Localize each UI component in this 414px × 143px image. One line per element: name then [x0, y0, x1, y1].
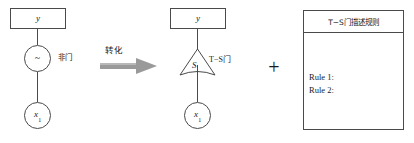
tilde-icon: ~: [35, 53, 40, 63]
rules-panel-header: T−S门描述规则: [304, 11, 403, 33]
right-input-node: x1: [184, 102, 211, 129]
left-output-label: y: [36, 14, 40, 23]
plus-icon: +: [264, 56, 284, 78]
right-output-box: y: [170, 8, 226, 29]
right-gate-label: T−S门: [209, 56, 231, 64]
left-edge-gate-to-input: [37, 72, 38, 102]
left-input-subscript: 1: [38, 117, 41, 123]
right-input-label: x1: [194, 110, 201, 121]
left-not-gate-node: ~: [24, 45, 51, 72]
right-edge-gate-to-input: [197, 65, 198, 102]
transform-label: 转化: [105, 46, 123, 55]
right-block-arrow-icon: [100, 58, 158, 74]
rules-panel-body: Rule 1: Rule 2:: [304, 33, 403, 129]
left-gate-label: 非门: [58, 54, 72, 62]
left-input-label: x1: [34, 110, 41, 121]
figure-canvas: y ~ 非门 x1 转化 y S T−S门 x1 + T−S门描述规则 Rule…: [0, 0, 414, 143]
left-edge-box-to-gate: [37, 28, 38, 45]
ts-gate-letter: S: [192, 61, 197, 70]
left-input-node: x1: [24, 102, 51, 129]
right-output-label: y: [196, 14, 200, 23]
right-edge-box-to-gate: [197, 28, 198, 50]
transform-arrow-group: 转化: [100, 46, 162, 74]
rule-item: Rule 2:: [309, 86, 334, 95]
rules-panel: T−S门描述规则 Rule 1: Rule 2:: [303, 10, 404, 130]
left-output-box: y: [10, 8, 66, 29]
right-input-subscript: 1: [198, 117, 201, 123]
rule-item: Rule 1:: [309, 73, 334, 82]
